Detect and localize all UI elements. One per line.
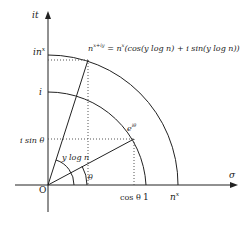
- horizontal-axis-arrow-icon: [230, 182, 238, 188]
- angle-arc-theta: [82, 166, 87, 185]
- label-origin: O: [39, 185, 46, 195]
- label-one: 1: [143, 192, 149, 202]
- label-theta: θ: [88, 173, 93, 182]
- label-ylogn: y log n: [61, 153, 89, 162]
- label-i: i: [39, 87, 42, 97]
- formula: nx+iy = nx(cos(y log n) + i sin(y log n)…: [88, 42, 240, 53]
- label-cos-theta: cos θ: [120, 193, 141, 202]
- label-nx: nx: [170, 190, 180, 202]
- vertical-axis-arrow-icon: [45, 11, 51, 19]
- label-it: it: [32, 10, 39, 20]
- outer-arc-nx: [48, 55, 178, 185]
- complex-plane-diagram: it σ O inx i i sin θ cos θ 1 nx eiθ θ y …: [0, 0, 248, 225]
- label-sigma: σ: [229, 170, 236, 180]
- angle-arc-ylogn: [56, 160, 74, 185]
- label-e-itheta: eiθ: [127, 122, 136, 133]
- label-inx: inx: [33, 45, 46, 57]
- label-isin-theta: i sin θ: [20, 136, 44, 145]
